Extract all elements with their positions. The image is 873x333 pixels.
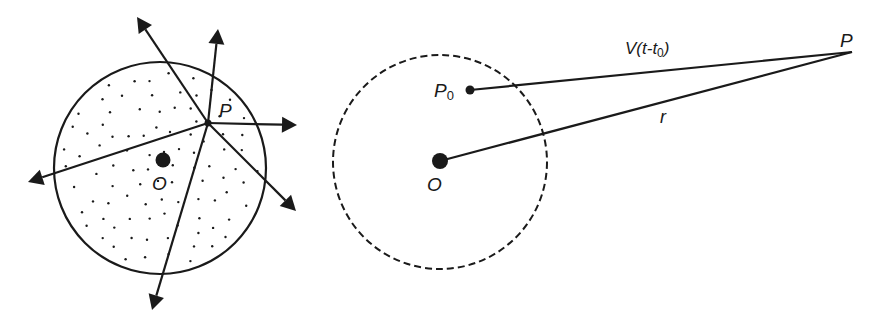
- stipple-dot: [169, 131, 171, 133]
- stipple-dot: [145, 203, 147, 205]
- stipple-dot: [198, 217, 200, 219]
- stipple-dot: [155, 126, 157, 128]
- stipple-dot: [241, 134, 243, 136]
- ray-line: [156, 123, 208, 296]
- stipple-dot: [223, 148, 225, 150]
- segment-O-to-P: [440, 52, 852, 161]
- stipple-dot: [197, 198, 199, 200]
- stipple-dot: [222, 177, 224, 179]
- point-P-dot: [205, 120, 212, 127]
- stipple-dot: [178, 148, 180, 150]
- stipple-dot: [121, 95, 123, 97]
- stipple-dot: [111, 136, 113, 138]
- stipple-dot: [81, 211, 83, 213]
- stipple-dot: [192, 77, 194, 79]
- label-vt-close: ): [662, 39, 670, 58]
- stipple-dot: [113, 226, 115, 228]
- label-P0: P0: [434, 80, 454, 103]
- arrowhead-icon: [28, 170, 45, 185]
- stipple-dot: [189, 260, 191, 262]
- right-figure: O P0 P V(t-t0) r: [333, 30, 853, 269]
- ray-line: [42, 123, 208, 177]
- stipple-dot: [193, 245, 195, 247]
- stipple-dot: [222, 133, 224, 135]
- stipple-dot: [113, 246, 115, 248]
- stipple-dot: [161, 198, 163, 200]
- stipple-dot: [86, 132, 88, 134]
- stipple-dot: [147, 168, 149, 170]
- stipple-dot: [63, 148, 65, 150]
- stipple-dot: [241, 149, 243, 151]
- stipple-dot: [174, 107, 176, 109]
- stipple-dot: [214, 199, 216, 201]
- point-P0-dot: [466, 86, 475, 95]
- stipple-dot: [212, 227, 214, 229]
- arrowhead-icon: [208, 29, 224, 45]
- stipple-dot: [177, 201, 179, 203]
- stipple-dot: [197, 232, 199, 234]
- label-P0-main: P: [434, 80, 447, 101]
- label-P-right: P: [840, 30, 853, 51]
- label-r: r: [660, 107, 667, 127]
- stipple-dot: [85, 225, 87, 227]
- stipple-dot: [102, 124, 104, 126]
- stipple-dot: [245, 205, 247, 207]
- stipple-dot: [190, 107, 192, 109]
- ray-line: [208, 123, 282, 125]
- stipple-dot: [109, 111, 111, 113]
- stipple-dot: [159, 111, 161, 113]
- stipple-dot: [92, 200, 94, 202]
- stipple-dot: [195, 120, 197, 122]
- stipple-dot: [234, 168, 236, 170]
- stipple-dot: [133, 80, 135, 82]
- arrowhead-icon: [282, 117, 297, 133]
- stipple-dot: [167, 237, 169, 239]
- stipple-dot: [226, 191, 228, 193]
- stipple-dot: [228, 218, 230, 220]
- stipple-dot: [171, 181, 173, 183]
- stipple-dot: [72, 126, 74, 128]
- arrowhead-icon: [149, 293, 164, 310]
- stipple-dot: [129, 218, 131, 220]
- stipple-dot: [211, 245, 213, 247]
- stipple-dot: [172, 164, 174, 166]
- stipple-dot: [102, 218, 104, 220]
- stipple-dot: [108, 84, 110, 86]
- source-region-circle: [54, 62, 266, 274]
- stipple-dot: [73, 186, 75, 188]
- stipple-dot: [146, 239, 148, 241]
- stipple-dot: [167, 72, 169, 74]
- stipple-dot: [163, 212, 165, 214]
- stipple-dot: [101, 98, 103, 100]
- label-P0-subscript: 0: [447, 88, 454, 103]
- ray-line: [145, 29, 208, 123]
- stipple-dot: [98, 144, 100, 146]
- stipple-dot: [65, 165, 67, 167]
- stipple-dot: [132, 169, 134, 171]
- stipple-dot: [126, 195, 128, 197]
- stipple-dot: [139, 183, 141, 185]
- label-velocity-time: V(t-t0): [625, 39, 669, 60]
- stipple-dot: [102, 237, 104, 239]
- label-O-right: O: [427, 174, 442, 195]
- stipple-dot: [78, 155, 80, 157]
- stipple-dot: [190, 133, 192, 135]
- stipple-dot: [195, 94, 197, 96]
- ray-line: [208, 123, 285, 200]
- stipple-dot: [112, 164, 114, 166]
- stipple-dot: [139, 108, 141, 110]
- stipple-dot: [77, 113, 79, 115]
- stipple-dot: [143, 135, 145, 137]
- point-O-dot: [156, 153, 171, 168]
- stipple-dot: [201, 180, 203, 182]
- left-figure: P O: [28, 17, 297, 310]
- stipple-dot: [144, 256, 146, 258]
- stipple-dot: [127, 135, 129, 137]
- stipple-dot: [193, 152, 195, 154]
- stipple-dot: [107, 202, 109, 204]
- stipple-dot: [151, 94, 153, 96]
- stipple-dot: [148, 154, 150, 156]
- label-O-left: O: [152, 173, 167, 194]
- ray-line: [208, 44, 216, 123]
- arrowhead-icon: [137, 17, 152, 34]
